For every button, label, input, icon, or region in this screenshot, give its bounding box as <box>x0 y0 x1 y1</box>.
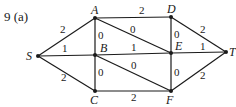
edge-weight-a-e: 0 <box>130 23 136 35</box>
node-b <box>93 53 97 57</box>
node-label-s: S <box>26 49 32 63</box>
diagram-stage: 9 (a) 212200100202102 SABCDEFT <box>0 0 236 107</box>
edge-weight-b-c: 0 <box>98 66 104 78</box>
edge-weight-c-f: 2 <box>131 91 137 103</box>
node-label-b: B <box>100 41 108 55</box>
node-t <box>224 50 228 54</box>
edge-weight-e-t: 1 <box>200 40 206 52</box>
node-label-d: D <box>166 2 176 16</box>
edge-weight-b-f: 0 <box>131 59 137 71</box>
edge-weight-a-d: 2 <box>139 4 145 16</box>
edge-weight-s-a: 2 <box>60 23 66 35</box>
edge-weight-b-e: 1 <box>131 41 137 53</box>
edge-weight-s-b: 1 <box>62 42 68 54</box>
node-label-e: E <box>174 39 183 53</box>
edge-weight-e-f: 0 <box>174 66 180 78</box>
node-label-a: A <box>90 3 99 17</box>
node-s <box>36 54 40 58</box>
node-e <box>169 51 173 55</box>
problem-label: 9 (a) <box>4 9 28 25</box>
node-label-f: F <box>165 93 174 107</box>
node-label-t: T <box>229 45 236 59</box>
edge-a-d <box>95 17 171 18</box>
network-graph: 212200100202102 SABCDEFT <box>0 0 236 107</box>
edge-weight-a-b: 0 <box>98 29 104 41</box>
edge-weight-d-t: 2 <box>200 23 206 35</box>
edge-weight-f-t: 2 <box>200 69 206 81</box>
node-label-c: C <box>90 93 99 107</box>
edge-weight-s-c: 2 <box>61 71 67 83</box>
edge-s-b <box>38 55 95 56</box>
edge-s-c <box>38 56 95 91</box>
